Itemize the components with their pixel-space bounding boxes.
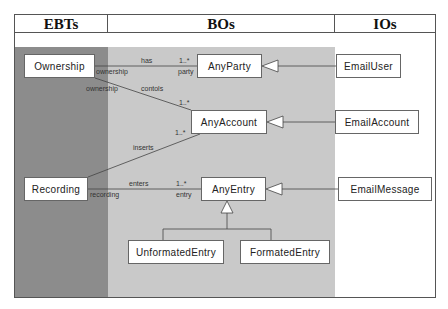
class-recording[interactable]: Recording [24,177,88,201]
class-emailmessage[interactable]: EmailMessage [338,177,432,201]
assoc-enters-multiplicity: 1..* [176,180,187,187]
assoc-enters-label: enters [129,180,148,187]
assoc-has-source-role: ownership [96,68,128,75]
class-emailuser[interactable]: EmailUser [336,54,401,78]
assoc-has-multiplicity: 1..* [179,57,190,64]
bos-header: BOs [108,15,335,33]
assoc-enters-target-role: entry [176,191,192,198]
assoc-has-target-role: party [178,68,194,75]
assoc-has-label: has [141,57,152,64]
assoc-controls-multiplicity: 1..* [179,99,190,106]
assoc-controls-source-role: ownership [86,85,118,92]
class-formatedentry[interactable]: FormatedEntry [240,240,330,264]
class-anyparty[interactable]: AnyParty [197,54,262,78]
assoc-inserts-label: inserts [133,144,154,151]
assoc-enters-source-role: recording [90,191,119,198]
ios-header: IOs [335,15,435,33]
class-ownership[interactable]: Ownership [24,54,95,78]
class-anyaccount[interactable]: AnyAccount [191,110,267,134]
ebts-header: EBTs [15,15,108,33]
class-unformatedentry[interactable]: UnformatedEntry [128,240,224,264]
class-anyentry[interactable]: AnyEntry [201,177,266,201]
ios-column [335,47,435,297]
class-emailaccount[interactable]: EmailAccount [335,110,419,134]
assoc-controls-label: contols [141,85,163,92]
assoc-inserts-multiplicity: 1..* [175,129,186,136]
